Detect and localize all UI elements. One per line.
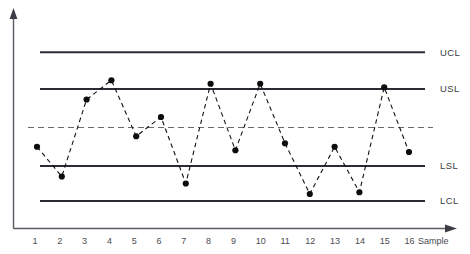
data-point-10[interactable] xyxy=(257,81,263,87)
data-point-5[interactable] xyxy=(133,133,139,139)
x-tick-label-14: 14 xyxy=(355,236,365,246)
x-axis-tick-labels: 12345678910111213141516 xyxy=(33,236,415,246)
x-tick-label-3: 3 xyxy=(82,236,87,246)
y-axis-arrowhead xyxy=(10,8,18,19)
series-line-dashed xyxy=(37,80,409,194)
x-tick-label-10: 10 xyxy=(256,236,266,246)
reference-label-lsl: LSL xyxy=(440,160,458,171)
data-point-13[interactable] xyxy=(332,144,338,150)
x-tick-label-9: 9 xyxy=(231,236,236,246)
x-tick-label-8: 8 xyxy=(206,236,211,246)
data-point-markers xyxy=(34,77,412,197)
data-point-4[interactable] xyxy=(108,77,114,83)
x-tick-label-1: 1 xyxy=(33,236,38,246)
data-point-16[interactable] xyxy=(406,149,412,155)
data-point-14[interactable] xyxy=(356,189,362,195)
x-tick-label-13: 13 xyxy=(330,236,340,246)
reference-label-lcl: LCL xyxy=(440,195,459,206)
chart-axes xyxy=(10,8,457,233)
x-tick-label-5: 5 xyxy=(132,236,137,246)
x-tick-label-6: 6 xyxy=(157,236,162,246)
reference-label-ucl: UCL xyxy=(440,47,460,58)
x-axis-arrowhead xyxy=(445,224,457,232)
x-tick-label-16: 16 xyxy=(405,236,415,246)
data-point-7[interactable] xyxy=(183,180,189,186)
data-point-12[interactable] xyxy=(307,191,313,197)
data-point-9[interactable] xyxy=(232,147,238,153)
x-tick-label-7: 7 xyxy=(181,236,186,246)
data-point-15[interactable] xyxy=(381,84,387,90)
data-point-11[interactable] xyxy=(282,140,288,146)
x-tick-label-11: 11 xyxy=(281,236,290,246)
control-chart-canvas: UCLUSLLSLLCL 12345678910111213141516 Sam… xyxy=(0,0,470,254)
x-tick-label-12: 12 xyxy=(305,236,315,246)
reference-lines xyxy=(28,52,433,201)
reference-line-labels: UCLUSLLSLLCL xyxy=(440,47,460,207)
x-axis-caption: Sample xyxy=(418,236,449,246)
data-point-6[interactable] xyxy=(158,114,164,120)
data-point-3[interactable] xyxy=(84,96,90,102)
data-series xyxy=(37,80,409,194)
reference-label-usl: USL xyxy=(440,83,460,94)
x-tick-label-4: 4 xyxy=(107,236,112,246)
x-tick-label-2: 2 xyxy=(57,236,62,246)
data-point-2[interactable] xyxy=(59,173,65,179)
data-point-8[interactable] xyxy=(208,81,214,87)
control-chart: UCLUSLLSLLCL 12345678910111213141516 Sam… xyxy=(0,0,470,254)
x-tick-label-15: 15 xyxy=(380,236,390,246)
data-point-1[interactable] xyxy=(34,144,40,150)
